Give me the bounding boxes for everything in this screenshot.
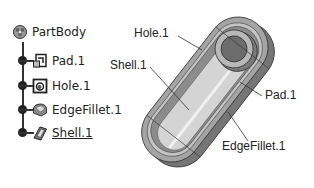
tree-node-label: Hole.1 <box>52 79 91 93</box>
tree-node-pad[interactable]: Pad.1 <box>32 51 85 71</box>
leader-line-hole <box>178 36 202 50</box>
specification-tree: PartBody Pad.1 Hole.1 EdgeFillet.1 <box>0 0 120 188</box>
callout-pad: Pad.1 <box>265 88 296 102</box>
tree-node-shell[interactable]: Shell.1 <box>32 123 93 143</box>
part-3d-view: Hole.1 Shell.1 Pad.1 EdgeFillet.1 <box>110 0 314 188</box>
partbody-icon <box>12 24 28 40</box>
tree-node-label: Shell.1 <box>52 126 93 140</box>
tree-node-label: Pad.1 <box>52 54 85 68</box>
pad-icon <box>32 53 48 69</box>
callout-shell: Shell.1 <box>110 58 147 72</box>
hole-icon <box>32 78 48 94</box>
leader-line-edgefillet <box>228 112 248 141</box>
tree-node-label: PartBody <box>32 25 86 39</box>
edgefillet-icon <box>32 102 48 118</box>
tree-node-hole[interactable]: Hole.1 <box>32 76 91 96</box>
tree-node-edgefillet[interactable]: EdgeFillet.1 <box>32 100 122 120</box>
tree-node-partbody[interactable]: PartBody <box>12 22 86 42</box>
callout-edgefillet: EdgeFillet.1 <box>222 139 285 153</box>
callout-hole: Hole.1 <box>134 26 169 40</box>
shell-icon <box>32 125 48 141</box>
